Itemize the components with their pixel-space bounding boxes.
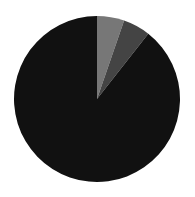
pie-slices bbox=[14, 16, 180, 182]
pie-slice-2 bbox=[14, 16, 180, 182]
pie-chart bbox=[0, 0, 195, 197]
